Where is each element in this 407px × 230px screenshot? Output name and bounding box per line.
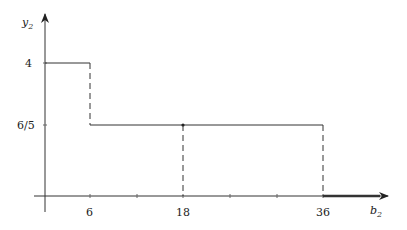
step-function-chart: 4 6/5 6 18 36 y2 b2 bbox=[0, 0, 407, 230]
x-tick-label-6: 6 bbox=[86, 206, 93, 219]
x-axis-label: b2 bbox=[370, 204, 382, 219]
y-tick-label-4: 4 bbox=[25, 57, 32, 70]
x-tick-label-18: 18 bbox=[176, 206, 190, 219]
y-axis-label-sub: 2 bbox=[27, 22, 33, 31]
x-axis-label-sub: 2 bbox=[376, 210, 382, 219]
y-tick-label-6-5: 6/5 bbox=[17, 119, 35, 132]
y-axis-label: y2 bbox=[21, 16, 33, 31]
x-tick-label-36: 36 bbox=[316, 206, 330, 219]
x-axis-label-main: b bbox=[370, 204, 377, 217]
chart-canvas: 4 6/5 6 18 36 y2 b2 bbox=[0, 0, 407, 230]
point-marker bbox=[181, 123, 184, 126]
